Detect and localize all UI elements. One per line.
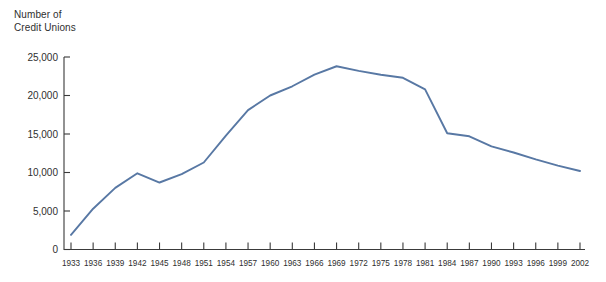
y-tick-label: 0: [52, 244, 58, 255]
x-tick-label: 1942: [128, 259, 147, 268]
y-tick-label: 20,000: [27, 90, 58, 101]
credit-unions-line-chart: Number of Credit Unions 05,00010,00015,0…: [0, 0, 606, 282]
x-tick-label: 1963: [283, 259, 302, 268]
x-tick-label: 1954: [217, 259, 236, 268]
x-axis-ticks: 1933193619391942194519481951195419571960…: [62, 243, 590, 268]
x-tick-label: 1945: [150, 259, 169, 268]
x-tick-label: 1987: [460, 259, 479, 268]
x-tick-label: 1939: [106, 259, 125, 268]
axis-lines: [64, 57, 585, 250]
x-tick-label: 2002: [571, 259, 590, 268]
x-tick-label: 1948: [173, 259, 192, 268]
x-tick-label: 1996: [527, 259, 546, 268]
x-tick-label: 1984: [438, 259, 457, 268]
x-tick-label: 1960: [261, 259, 280, 268]
x-tick-label: 1978: [394, 259, 413, 268]
y-tick-label: 25,000: [27, 52, 58, 63]
x-tick-label: 1972: [350, 259, 369, 268]
data-line-credit-unions: [71, 66, 580, 235]
x-tick-label: 1981: [416, 259, 435, 268]
y-tick-label: 10,000: [27, 167, 58, 178]
plot-area: 05,00010,00015,00020,00025,000 193319361…: [0, 0, 606, 282]
x-tick-label: 1990: [482, 259, 501, 268]
y-tick-label: 15,000: [27, 129, 58, 140]
x-tick-label: 1975: [372, 259, 391, 268]
x-tick-label: 1969: [327, 259, 346, 268]
x-tick-label: 1951: [195, 259, 214, 268]
y-tick-label: 5,000: [33, 206, 58, 217]
x-tick-label: 1999: [549, 259, 568, 268]
x-tick-label: 1993: [504, 259, 523, 268]
x-tick-label: 1933: [62, 259, 81, 268]
x-tick-label: 1966: [305, 259, 324, 268]
x-tick-label: 1936: [84, 259, 103, 268]
x-tick-label: 1957: [239, 259, 258, 268]
